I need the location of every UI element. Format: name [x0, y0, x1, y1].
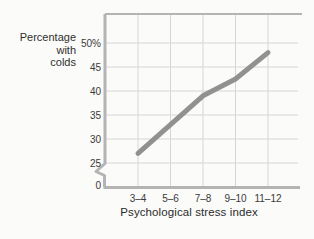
- x-axis-title: Psychological stress index: [89, 206, 289, 218]
- y-tick-label: 35: [90, 110, 102, 121]
- y-tick-label: 25: [90, 158, 102, 169]
- y-tick-label: 30: [90, 134, 102, 145]
- x-tick-label: 7–8: [195, 193, 212, 204]
- x-tick-label: 3–4: [130, 193, 147, 204]
- y-tick-label: 0: [95, 180, 101, 191]
- x-tick-label: 5–6: [162, 193, 179, 204]
- y-tick-label: 50%: [81, 38, 101, 49]
- stress-colds-line-chart-figure: Percentage with colds 0253035404550%3–45…: [0, 0, 314, 239]
- x-tick-label: 9–10: [224, 193, 247, 204]
- y-tick-label: 40: [90, 86, 102, 97]
- x-tick-label: 11–12: [254, 193, 282, 204]
- y-tick-label: 45: [90, 62, 102, 73]
- line-chart-canvas: 0253035404550%3–45–67–89–1011–12: [0, 0, 314, 239]
